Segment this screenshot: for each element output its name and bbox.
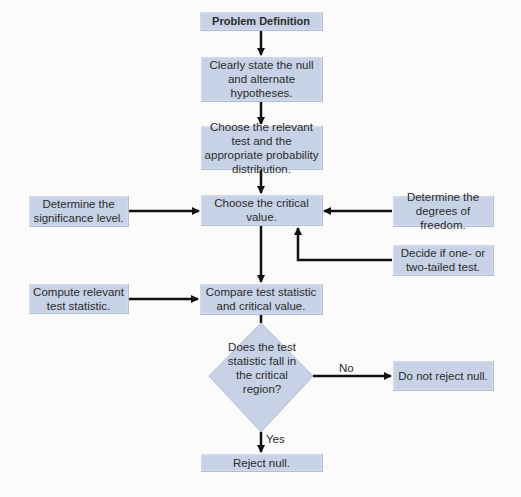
no-edge-label: No — [339, 362, 354, 374]
do-not-reject-box: Do not reject null. — [393, 361, 494, 391]
decision-diamond-text: Does the test statistic fall in the crit… — [222, 340, 302, 396]
reject-null-box: Reject null. — [201, 454, 323, 472]
yes-edge-label: Yes — [266, 433, 285, 445]
choose-test-box: Choose the relevant test and the appropr… — [201, 126, 323, 170]
flowchart: Problem Definition Clearly state the nul… — [0, 0, 521, 497]
tails-decision-box: Decide if one- or two-tailed test. — [393, 245, 494, 276]
choose-critical-value-box: Choose the critical value. — [201, 195, 323, 226]
compare-box: Compare test statistic and critical valu… — [200, 284, 323, 315]
significance-level-box: Determine the significance level. — [29, 196, 129, 227]
problem-definition-box: Problem Definition — [200, 12, 323, 31]
compute-statistic-box: Compute relevant test statistic. — [29, 284, 129, 314]
degrees-of-freedom-box: Determine the degrees of freedom. — [393, 196, 494, 227]
state-hypotheses-box: Clearly state the null and alternate hyp… — [201, 57, 323, 102]
